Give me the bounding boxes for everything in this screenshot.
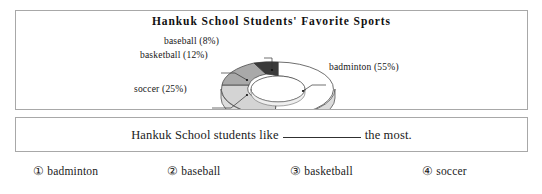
answer-options: ①badminton ②baseball ③basketball ④soccer — [15, 164, 528, 186]
dot-soccer — [246, 94, 248, 96]
dot-badminton — [302, 90, 304, 92]
chart-panel: Hankuk School Students' Favorite Sports — [15, 10, 528, 110]
fill-in-the-blank-sentence: Hankuk School students likethe most. — [131, 127, 412, 143]
option-2-label: baseball — [181, 165, 220, 177]
option-4-number: ④ — [422, 165, 433, 177]
option-3-label: basketball — [304, 165, 353, 177]
chart-title: Hankuk School Students' Favorite Sports — [16, 15, 527, 27]
option-1-number: ① — [33, 165, 44, 177]
pie-chart-graphic — [16, 29, 529, 109]
option-3-number: ③ — [290, 165, 301, 177]
worksheet-page: Hankuk School Students' Favorite Sports — [0, 0, 542, 194]
dot-basketball — [246, 79, 248, 81]
option-4-label: soccer — [436, 165, 467, 177]
dot-baseball — [271, 69, 273, 71]
option-3[interactable]: ③basketball — [290, 164, 353, 178]
sentence-after-blank: the most. — [365, 127, 412, 141]
option-1[interactable]: ①badminton — [33, 164, 98, 178]
option-2[interactable]: ②baseball — [167, 164, 220, 178]
option-4[interactable]: ④soccer — [422, 164, 467, 178]
option-2-number: ② — [167, 165, 178, 177]
answer-blank[interactable] — [283, 127, 361, 139]
pie-label-soccer: soccer (25%) — [134, 84, 187, 94]
option-1-label: badminton — [47, 165, 98, 177]
pie-label-badminton: badminton (55%) — [329, 62, 399, 72]
sentence-before-blank: Hankuk School students like — [131, 127, 278, 141]
sentence-panel: Hankuk School students likethe most. — [15, 117, 528, 152]
pie-label-basketball: basketball (12%) — [140, 50, 208, 60]
pie-label-baseball: baseball (8%) — [164, 36, 219, 46]
